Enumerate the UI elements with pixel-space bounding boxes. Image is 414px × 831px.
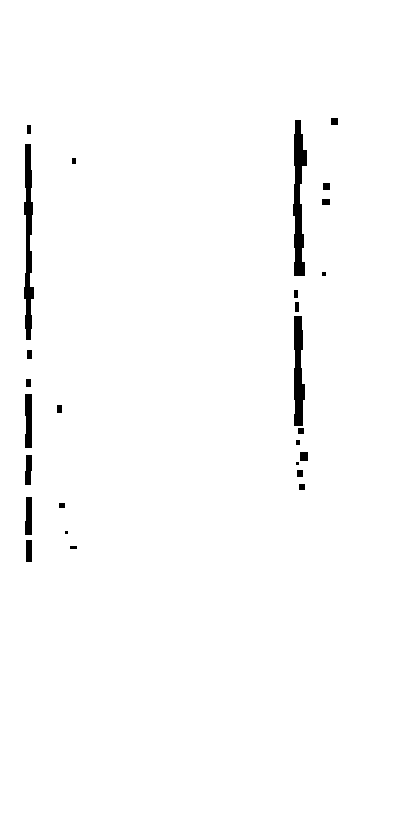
speck-right-top bbox=[331, 118, 338, 125]
left-column-ink-segment bbox=[26, 215, 32, 235]
right-column-ink-segment bbox=[295, 166, 302, 184]
left-column-ink-segment bbox=[27, 125, 31, 134]
left-column-ink-segment bbox=[25, 170, 32, 188]
speck-left-low-a bbox=[59, 503, 65, 508]
speck-left-low-b bbox=[65, 531, 68, 534]
left-column-ink-segment bbox=[26, 497, 32, 521]
right-column-ink-segment bbox=[293, 204, 302, 216]
ink-layer-right-column bbox=[0, 0, 414, 831]
left-column-ink-segment bbox=[26, 540, 32, 562]
ink-layer-left-column bbox=[0, 0, 414, 831]
right-column-ink-segment bbox=[294, 234, 304, 248]
left-column-ink-segment bbox=[24, 287, 34, 299]
right-column-ink-segment bbox=[294, 150, 307, 166]
speck-right-low bbox=[322, 272, 326, 276]
right-column-ink-segment bbox=[294, 330, 303, 350]
left-column-ink-segment bbox=[25, 471, 31, 485]
left-column-ink-segment bbox=[27, 350, 32, 359]
speck-tail-d bbox=[297, 470, 303, 477]
right-column-ink-segment bbox=[294, 262, 305, 276]
speck-tail-a bbox=[298, 428, 304, 434]
left-column-ink-segment bbox=[24, 202, 33, 215]
right-column-ink-segment bbox=[295, 302, 299, 312]
right-column-ink-segment bbox=[295, 248, 302, 262]
right-column-ink-segment bbox=[295, 400, 303, 414]
right-column-ink-segment bbox=[294, 134, 303, 150]
speck-left-upper bbox=[72, 158, 76, 164]
speck-tail-e bbox=[299, 484, 305, 490]
left-column-ink-segment bbox=[26, 299, 31, 315]
right-column-ink-segment bbox=[294, 384, 305, 400]
right-column-ink-segment bbox=[295, 350, 301, 368]
left-column-ink-segment bbox=[26, 188, 31, 202]
left-column-ink-segment bbox=[26, 416, 32, 434]
speck-left-mid bbox=[57, 405, 62, 413]
left-column-ink-segment bbox=[25, 394, 32, 416]
right-column-ink-segment bbox=[294, 184, 300, 204]
speck-right-mid-a bbox=[323, 183, 330, 190]
left-column-ink-segment bbox=[25, 434, 32, 448]
left-column-ink-segment bbox=[26, 251, 32, 273]
left-column-ink-segment bbox=[25, 273, 30, 287]
left-column-ink-segment bbox=[25, 521, 32, 535]
speck-tail-f bbox=[296, 462, 299, 465]
right-column-ink-segment bbox=[294, 414, 303, 426]
speck-left-low-c bbox=[70, 546, 77, 549]
right-column-ink-segment bbox=[294, 290, 298, 298]
left-column-ink-segment bbox=[26, 329, 31, 340]
right-column-ink-segment bbox=[294, 316, 302, 330]
ink-layer-specks bbox=[0, 0, 414, 831]
left-column-ink-segment bbox=[26, 379, 31, 387]
right-column-ink-segment bbox=[294, 368, 302, 384]
right-column-ink-segment bbox=[295, 120, 301, 134]
left-column-ink-segment bbox=[26, 455, 32, 471]
left-column-ink-segment bbox=[26, 235, 30, 251]
speck-right-mid-b bbox=[322, 199, 330, 205]
right-column-ink-segment bbox=[295, 216, 302, 234]
left-column-ink-segment bbox=[25, 315, 32, 329]
speck-tail-c bbox=[300, 452, 308, 461]
scanned-page bbox=[0, 0, 414, 831]
speck-tail-b bbox=[296, 440, 300, 445]
left-column-ink-segment bbox=[25, 144, 31, 170]
